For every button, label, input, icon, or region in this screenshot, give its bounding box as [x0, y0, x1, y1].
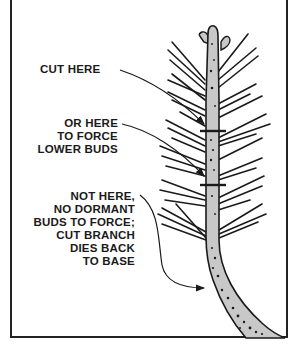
label-not-here: NOT HERE, NO DORMANT BUDS TO FORCE; CUT …: [30, 190, 135, 268]
side-bud-right: [221, 36, 230, 50]
label-or-here: OR HERE TO FORCE LOWER BUDS: [30, 117, 118, 156]
needles-left: [158, 42, 206, 240]
leader-not-here: [140, 195, 204, 288]
leader-or-here: [122, 124, 204, 176]
branch-stem: [206, 26, 285, 338]
label-cut-here: CUT HERE: [40, 63, 100, 76]
needles-right: [218, 34, 270, 238]
pine-branch-illustration: [0, 0, 297, 351]
